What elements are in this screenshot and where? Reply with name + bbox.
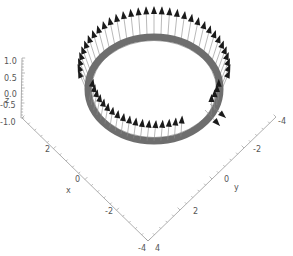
x-tick-0: 0 bbox=[75, 175, 80, 184]
y-tick--4: -4 bbox=[278, 117, 286, 126]
ring-band-inner-edge bbox=[92, 41, 217, 138]
x-tick--4: -4 bbox=[138, 244, 146, 253]
arrows-back bbox=[78, 6, 231, 94]
x-axis-title: x bbox=[66, 186, 71, 195]
y-tick--2: -2 bbox=[253, 145, 261, 154]
y-axis-title: y bbox=[234, 183, 239, 192]
y-axis: -4 -2 0 y 2 4 bbox=[146, 115, 286, 253]
3d-plot[interactable]: 1.0 0.5 0.0 z -0.5 -1.0 2 0 x -2 -4 -4 -… bbox=[0, 0, 293, 256]
y-tick-2: 2 bbox=[193, 207, 198, 216]
x-tick-2: 2 bbox=[45, 145, 50, 154]
z-axis: 1.0 0.5 0.0 z -0.5 -1.0 bbox=[0, 57, 25, 127]
x-tick--2: -2 bbox=[105, 207, 113, 216]
z-tick-0.5: 0.5 bbox=[4, 74, 17, 83]
z-tick--0.5: -0.5 bbox=[0, 101, 16, 110]
y-tick-4: 4 bbox=[155, 244, 160, 253]
z-tick-1.0: 1.0 bbox=[4, 57, 17, 66]
z-tick--1.0: -1.0 bbox=[0, 118, 16, 127]
y-tick-0: 0 bbox=[224, 175, 229, 184]
